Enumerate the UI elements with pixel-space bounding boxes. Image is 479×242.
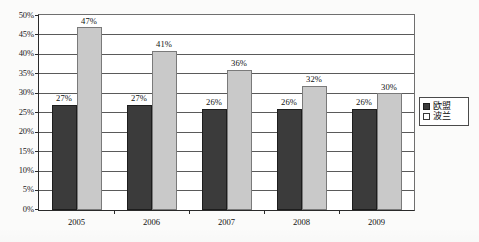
y-axis-tick-label: 5% bbox=[2, 184, 34, 194]
legend-label-eu: 欧盟 bbox=[433, 102, 451, 111]
bar-欧盟-2005 bbox=[52, 105, 77, 210]
x-axis-tick-label: 2008 bbox=[264, 217, 339, 227]
bar-欧盟-2007 bbox=[202, 109, 227, 210]
legend-item-1: 波兰 bbox=[423, 112, 465, 121]
bar-value-label: 27% bbox=[123, 93, 156, 103]
bar-欧盟-2009 bbox=[352, 109, 377, 210]
bar-value-label: 47% bbox=[73, 16, 106, 26]
bar-value-label: 36% bbox=[223, 58, 256, 68]
legend-item-0: 欧盟 bbox=[423, 102, 465, 111]
legend-swatch-poland-icon bbox=[423, 113, 430, 120]
x-axis-tick-mark bbox=[189, 210, 190, 214]
bar-value-label: 27% bbox=[48, 93, 81, 103]
x-axis-tick-label: 2007 bbox=[189, 217, 264, 227]
paper-texture bbox=[0, 228, 479, 242]
bar-value-label: 32% bbox=[298, 74, 331, 84]
y-axis-tick-label: 0% bbox=[2, 204, 34, 214]
bar-value-label: 30% bbox=[373, 82, 406, 92]
bar-欧盟-2008 bbox=[277, 109, 302, 210]
legend-swatch-eu-icon bbox=[423, 103, 430, 110]
bar-波兰-2005 bbox=[77, 27, 102, 210]
bar-chart-figure: 50%45%40%35%30%25%20%15%10%5%0% 27%47%27… bbox=[0, 0, 479, 242]
y-axis-tick-label: 25% bbox=[2, 107, 34, 117]
y-axis-tick-label: 15% bbox=[2, 146, 34, 156]
plot-area bbox=[38, 14, 415, 211]
bar-欧盟-2006 bbox=[127, 105, 152, 210]
chart-legend: 欧盟 波兰 bbox=[419, 97, 469, 126]
x-axis-tick-label: 2006 bbox=[114, 217, 189, 227]
bar-value-label: 26% bbox=[198, 97, 231, 107]
y-axis-tick-label: 10% bbox=[2, 165, 34, 175]
x-axis-tick-mark bbox=[264, 210, 265, 214]
y-axis-tick-label: 35% bbox=[2, 68, 34, 78]
x-axis-tick-mark bbox=[339, 210, 340, 214]
bar-波兰-2009 bbox=[377, 93, 402, 210]
x-axis-tick-label: 2005 bbox=[39, 217, 114, 227]
bar-波兰-2007 bbox=[227, 70, 252, 210]
y-axis-tick-label: 45% bbox=[2, 29, 34, 39]
bar-value-label: 41% bbox=[148, 39, 181, 49]
y-axis-tick-label: 50% bbox=[2, 10, 34, 20]
y-axis-tick-label: 40% bbox=[2, 48, 34, 58]
x-axis-tick-mark bbox=[114, 210, 115, 214]
bar-波兰-2006 bbox=[152, 51, 177, 210]
x-axis-tick-label: 2009 bbox=[339, 217, 414, 227]
y-axis-tick-label: 30% bbox=[2, 87, 34, 97]
y-axis-tick-label: 20% bbox=[2, 126, 34, 136]
bar-value-label: 26% bbox=[273, 97, 306, 107]
bar-value-label: 26% bbox=[348, 97, 381, 107]
legend-label-poland: 波兰 bbox=[433, 112, 451, 121]
